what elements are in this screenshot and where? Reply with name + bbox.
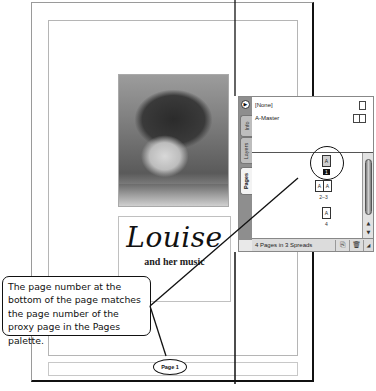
new-page-button[interactable]: ⎘ <box>335 240 349 251</box>
scroll-thumb[interactable] <box>365 159 372 215</box>
trash-icon: 🗑 <box>352 241 361 249</box>
master-item-none[interactable]: [None] <box>255 98 370 112</box>
master-item-a-master[interactable]: A-Master <box>255 111 370 125</box>
callout-text: The page number at the bottom of the pag… <box>8 281 141 346</box>
scroll-down-arrow-icon[interactable]: ▼ <box>365 228 372 236</box>
delete-page-button[interactable]: 🗑 <box>349 240 363 251</box>
master-label: [None] <box>255 102 273 108</box>
page-proxy-2-3[interactable]: A A 2–3 <box>315 180 332 200</box>
palette-tab-strip: ▶ Info Layers Pages <box>239 97 252 240</box>
proxy-page: A <box>322 207 331 219</box>
photo-shoulder <box>119 184 228 206</box>
title-subtitle: and her music <box>119 256 230 267</box>
resize-grip-icon: ◢ <box>367 242 371 248</box>
master-label: A-Master <box>255 115 279 121</box>
tab-info[interactable]: Info <box>240 115 252 137</box>
proxy-page-number: 4 <box>325 221 328 227</box>
proxy-page: A <box>322 155 331 167</box>
page-proxy-4[interactable]: A 4 <box>322 207 331 227</box>
tab-layers[interactable]: Layers <box>240 137 252 164</box>
resize-grip[interactable]: ◢ <box>363 240 373 251</box>
explanatory-callout: The page number at the bottom of the pag… <box>2 276 151 336</box>
new-page-icon: ⎘ <box>340 241 346 249</box>
proxy-page: A <box>323 180 332 192</box>
pages-scrollbar[interactable]: ▲ ▼ <box>362 153 373 240</box>
tab-pages[interactable]: Pages <box>240 167 252 195</box>
title-script: Louise <box>119 221 230 254</box>
single-page-icon <box>359 101 366 110</box>
masters-list: [None] A-Master <box>252 97 373 153</box>
palette-status-bar: 4 Pages in 3 Spreads ⎘ 🗑 ◢ <box>252 238 373 251</box>
page-number-label: Page 1 <box>161 364 179 370</box>
page-number-marker: Page 1 <box>153 359 187 375</box>
page-proxy-1[interactable]: A 1 <box>322 155 331 175</box>
palette-menu-button[interactable]: ▶ <box>241 100 250 109</box>
triangle-right-icon: ▶ <box>244 102 248 107</box>
spread-icon <box>353 114 366 123</box>
portrait-photo[interactable] <box>118 74 229 207</box>
pages-list: A 1 A A 2–3 A 4 <box>252 153 362 240</box>
pages-count-status: 4 Pages in 3 Spreads <box>252 242 335 248</box>
scroll-up-arrow-icon[interactable]: ▲ <box>365 219 372 227</box>
proxy-page-number: 1 <box>323 169 330 175</box>
proxy-page-number: 2–3 <box>319 194 327 200</box>
pages-palette: ▶ Info Layers Pages [None] A-Master A 1 <box>238 96 374 252</box>
